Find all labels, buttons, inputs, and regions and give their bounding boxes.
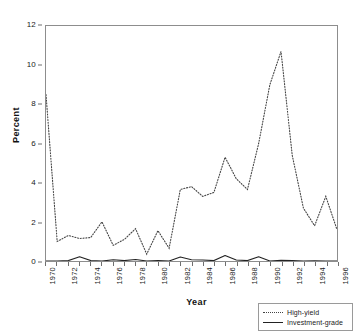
y-tick-mark xyxy=(38,183,42,184)
x-tick-mark xyxy=(192,262,193,266)
legend-swatch-dotted-icon xyxy=(263,308,283,316)
x-axis-tick-labels: 1970197219741976197819801982198419861988… xyxy=(45,267,338,295)
x-tick-label: 1974 xyxy=(94,267,102,285)
x-tick-mark xyxy=(237,262,238,266)
x-tick-label: 1996 xyxy=(342,267,350,285)
x-tick-mark xyxy=(101,262,102,266)
y-tick-mark xyxy=(38,104,42,105)
y-tick-mark xyxy=(38,25,42,26)
legend-item-investment-grade[interactable]: Investment-grade xyxy=(263,317,348,327)
x-tick-mark xyxy=(158,262,159,266)
chart-figure: Percent 024681012 1970197219741976197819… xyxy=(0,0,357,336)
legend-item-high-yield[interactable]: High-yield xyxy=(263,307,348,317)
y-tick-label: 12 xyxy=(27,21,36,29)
series-line-high-yield xyxy=(46,51,337,254)
x-tick-label: 1980 xyxy=(161,267,169,285)
x-tick-mark xyxy=(56,262,57,266)
y-tick-label: 8 xyxy=(31,100,36,108)
chart-legend: High-yield Investment-grade xyxy=(258,303,353,331)
x-tick-label: 1970 xyxy=(49,267,57,285)
x-tick-mark xyxy=(180,262,181,266)
x-tick-mark xyxy=(315,262,316,266)
x-tick-label: 1988 xyxy=(251,267,259,285)
x-tick-label: 1986 xyxy=(229,267,237,285)
x-tick-mark xyxy=(203,262,204,266)
legend-swatch-solid-icon xyxy=(263,318,283,326)
x-tick-mark xyxy=(146,262,147,266)
x-tick-mark xyxy=(214,262,215,266)
y-tick-label: 4 xyxy=(31,179,36,187)
x-tick-mark xyxy=(338,262,339,266)
x-tick-mark xyxy=(304,262,305,266)
x-tick-label: 1992 xyxy=(296,267,304,285)
y-axis-ticks: 024681012 xyxy=(0,25,42,262)
x-tick-mark xyxy=(259,262,260,266)
y-tick-mark xyxy=(38,262,42,263)
x-tick-mark xyxy=(293,262,294,266)
y-tick-label: 0 xyxy=(31,258,36,266)
y-tick-mark xyxy=(38,143,42,144)
x-tick-label: 1972 xyxy=(71,267,79,285)
x-tick-mark xyxy=(327,262,328,266)
legend-label-investment-grade: Investment-grade xyxy=(287,318,343,327)
x-tick-mark xyxy=(248,262,249,266)
x-tick-mark xyxy=(68,262,69,266)
x-tick-mark xyxy=(90,262,91,266)
x-tick-mark xyxy=(45,262,46,266)
x-axis-title-text: Year xyxy=(186,297,207,307)
x-tick-mark xyxy=(270,262,271,266)
y-tick-label: 6 xyxy=(31,140,36,148)
x-tick-label: 1994 xyxy=(319,267,327,285)
x-tick-mark xyxy=(135,262,136,266)
x-tick-label: 1990 xyxy=(274,267,282,285)
x-tick-mark xyxy=(225,262,226,266)
x-tick-mark xyxy=(113,262,114,266)
y-tick-label: 10 xyxy=(27,61,36,69)
legend-label-high-yield: High-yield xyxy=(287,308,319,317)
x-tick-mark xyxy=(79,262,80,266)
x-tick-mark xyxy=(124,262,125,266)
y-tick-mark xyxy=(38,222,42,223)
x-tick-mark xyxy=(282,262,283,266)
y-tick-mark xyxy=(38,64,42,65)
x-tick-label: 1978 xyxy=(139,267,147,285)
series-canvas xyxy=(46,26,337,261)
x-tick-label: 1984 xyxy=(206,267,214,285)
series-line-investment-grade xyxy=(46,256,337,261)
y-tick-label: 2 xyxy=(31,219,36,227)
x-tick-label: 1982 xyxy=(184,267,192,285)
x-tick-mark xyxy=(169,262,170,266)
plot-area xyxy=(45,25,338,262)
x-tick-label: 1976 xyxy=(116,267,124,285)
